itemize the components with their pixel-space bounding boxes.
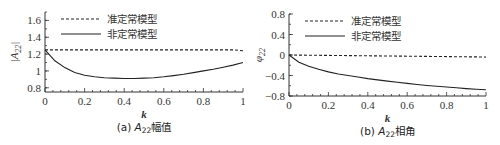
- legend: 准定常模型非定常模型: [61, 13, 157, 40]
- legend-label: 非定常模型: [351, 30, 401, 42]
- series-quasi-steady: [289, 55, 486, 57]
- chart-a-amplitude: 00.20.40.60.810.811.21.41.6准定常模型非定常模型k|A…: [8, 12, 246, 135]
- y-tick-label: 1.4: [27, 31, 41, 43]
- y-tick-label: 0: [280, 49, 286, 61]
- x-tick-label: 0.2: [322, 99, 336, 111]
- x-tick-label: 0.4: [361, 99, 375, 111]
- series-quasi-steady: [45, 50, 243, 51]
- x-tick-label: 0.6: [400, 99, 414, 111]
- y-tick-label: −0.4: [265, 70, 285, 82]
- y-axis-label: |A22|: [8, 42, 23, 63]
- y-tick-label: 1.2: [27, 48, 41, 60]
- x-tick-label: 1: [240, 95, 246, 107]
- chart-caption: (b) A22相角: [360, 125, 415, 139]
- y-tick-label: 0.8: [271, 8, 285, 20]
- y-tick-label: 0.4: [271, 29, 285, 41]
- legend-label: 非定常模型: [107, 28, 157, 40]
- x-axis-label: k: [141, 108, 147, 120]
- x-tick-label: 0.8: [197, 95, 211, 107]
- legend: 准定常模型非定常模型: [305, 15, 401, 42]
- series-unsteady: [289, 55, 486, 90]
- x-tick-label: 1: [483, 99, 489, 111]
- y-tick-label: 1.6: [27, 14, 41, 26]
- y-tick-label: −0.8: [265, 90, 285, 102]
- legend-label: 准定常模型: [351, 15, 401, 27]
- chart-b-phase: 00.20.40.60.81−0.8−0.400.40.8准定常模型非定常模型k…: [252, 8, 489, 139]
- x-tick-label: 0.8: [440, 99, 454, 111]
- x-tick-label: 0: [286, 99, 292, 111]
- figure: 00.20.40.60.810.811.21.41.6准定常模型非定常模型k|A…: [0, 0, 500, 145]
- x-tick-label: 0.2: [78, 95, 92, 107]
- x-tick-label: 0: [42, 95, 48, 107]
- legend-label: 准定常模型: [107, 13, 157, 25]
- y-tick-label: 1: [36, 65, 42, 77]
- y-axis-label: φ22: [252, 48, 267, 62]
- x-axis-label: k: [385, 112, 391, 124]
- x-tick-label: 0.6: [157, 95, 171, 107]
- y-tick-label: 0.8: [27, 82, 41, 94]
- x-tick-label: 0.4: [117, 95, 131, 107]
- series-unsteady: [45, 50, 243, 79]
- chart-caption: (a) A22幅值: [117, 121, 173, 135]
